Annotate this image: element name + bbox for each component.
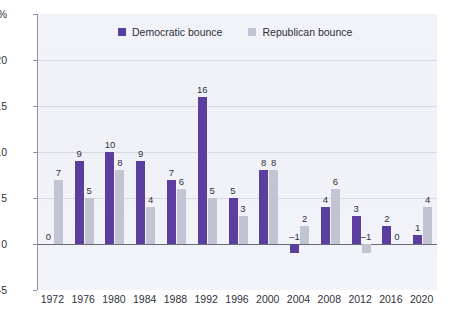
bar-value-label: 4 <box>140 194 162 205</box>
bar-value-label: 9 <box>68 148 90 159</box>
bar <box>115 170 124 244</box>
x-axis-tick-label: 2000 <box>251 293 285 305</box>
bar <box>362 244 371 253</box>
bar-value-label: 9 <box>130 148 152 159</box>
bar-value-label: 3 <box>345 203 367 214</box>
plot-area: 079510894761655388–12463–12014 <box>37 14 437 290</box>
bar <box>146 207 155 244</box>
bar <box>269 170 278 244</box>
legend-item-democratic: Democratic bounce <box>118 26 222 38</box>
x-axis-tick-label: 1976 <box>66 293 100 305</box>
bar <box>198 97 207 244</box>
bars-layer: 079510894761655388–12463–12014 <box>38 14 437 290</box>
y-axis-tick-mark <box>33 106 37 107</box>
y-axis-tick-label: 20 <box>0 54 7 66</box>
bar <box>54 180 63 244</box>
bar-value-label: 10 <box>99 139 121 150</box>
x-axis-tick-label: 2016 <box>374 293 408 305</box>
bar-value-label: 7 <box>47 167 69 178</box>
bar <box>177 189 186 244</box>
bar-value-label: 0 <box>386 231 408 242</box>
x-axis-tick-label: 1988 <box>158 293 192 305</box>
y-axis-tick-label: 5 <box>0 192 7 204</box>
bar <box>208 198 217 244</box>
x-axis-tick-label: 1980 <box>97 293 131 305</box>
bar-value-label: 5 <box>222 185 244 196</box>
bar <box>75 161 84 244</box>
bar <box>290 244 299 253</box>
y-axis-tick-mark <box>33 14 37 15</box>
bar <box>85 198 94 244</box>
chart-legend: Democratic bounce Republican bounce <box>118 26 352 38</box>
bar-value-label: 3 <box>232 203 254 214</box>
x-axis-tick-label: 2004 <box>282 293 316 305</box>
y-axis-tick-label: 15 <box>0 100 7 112</box>
bar <box>321 207 330 244</box>
bar-value-label: 16 <box>191 84 213 95</box>
bar-chart: Democratic bounce Republican bounce 0795… <box>0 0 451 331</box>
x-axis-tick-label: 1984 <box>128 293 162 305</box>
bar-value-label: 8 <box>109 157 131 168</box>
y-axis-tick-label: 25% <box>0 8 7 20</box>
bar <box>239 216 248 244</box>
bar-value-label: –1 <box>355 231 377 242</box>
bar <box>423 207 432 244</box>
y-axis-tick-label: 10 <box>0 146 7 158</box>
legend-label-democratic: Democratic bounce <box>132 26 222 38</box>
legend-swatch-republican <box>248 28 256 36</box>
x-axis-tick-label: 2020 <box>405 293 439 305</box>
y-axis-tick-mark <box>33 290 37 291</box>
bar <box>259 170 268 244</box>
bar-value-label: 6 <box>324 176 346 187</box>
bar <box>167 180 176 244</box>
y-axis-tick-label: –5 <box>0 284 7 296</box>
x-axis-tick-label: 2012 <box>343 293 377 305</box>
legend-swatch-democratic <box>118 28 126 36</box>
bar <box>331 189 340 244</box>
y-axis-tick-label: 0 <box>0 238 7 250</box>
x-axis-tick-label: 1996 <box>220 293 254 305</box>
bar-value-label: 2 <box>376 213 398 224</box>
legend-item-republican: Republican bounce <box>248 26 352 38</box>
bar-value-label: 5 <box>78 185 100 196</box>
y-axis-tick-mark <box>33 244 37 245</box>
y-axis-tick-mark <box>33 152 37 153</box>
bar-value-label: 6 <box>170 176 192 187</box>
x-axis-tick-label: 1972 <box>35 293 69 305</box>
bar-value-label: 4 <box>417 194 439 205</box>
x-axis-tick-label: 1992 <box>189 293 223 305</box>
y-axis-tick-mark <box>33 60 37 61</box>
bar <box>413 235 422 244</box>
bar <box>300 226 309 244</box>
bar-value-label: 5 <box>201 185 223 196</box>
y-axis-tick-mark <box>33 198 37 199</box>
bar-value-label: 8 <box>263 157 285 168</box>
bar-value-label: 2 <box>294 213 316 224</box>
x-axis-tick-label: 2008 <box>312 293 346 305</box>
legend-label-republican: Republican bounce <box>262 26 352 38</box>
